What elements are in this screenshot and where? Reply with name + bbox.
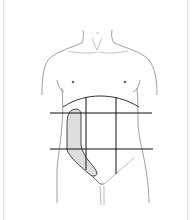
nipple-right-icon — [124, 81, 127, 84]
costal-margin — [63, 96, 139, 107]
torso-diagram — [0, 0, 192, 220]
highlight-region — [67, 109, 97, 176]
torso-outline — [42, 30, 157, 205]
nipple-left-icon — [72, 81, 75, 84]
